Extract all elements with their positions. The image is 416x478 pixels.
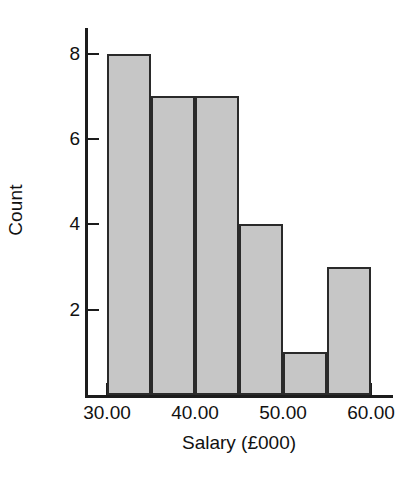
histogram-bar [327,267,371,395]
y-axis-tick-label: 4 [48,213,80,235]
x-axis-tick-label: 40.00 [152,402,238,424]
x-axis-tick-label: 60.00 [328,402,414,424]
y-axis-tick-mark [88,309,99,311]
histogram-bar [239,224,283,395]
histogram-bar [283,352,327,395]
x-axis-tick-label: 30.00 [64,402,150,424]
histogram-bar [107,54,151,395]
plot-area [85,28,393,398]
y-axis-tick-label: 6 [48,128,80,150]
histogram-bar [195,96,239,395]
y-axis-tick-label: 8 [48,43,80,65]
x-axis-tick-label: 50.00 [240,402,326,424]
y-axis-line [85,28,88,398]
y-axis-tick-mark [88,138,99,140]
histogram-figure: Count 2468 30.0040.0050.0060.00 Salary (… [0,0,416,478]
x-axis-tick-label-group: 30.0040.0050.0060.00 [85,402,405,428]
x-axis-line [85,395,393,398]
y-axis-tick-mark [88,53,99,55]
y-axis-tick-mark [88,223,99,225]
x-axis-title: Salary (£000) [85,432,393,454]
y-axis-tick-label: 2 [48,299,80,321]
histogram-bar [151,96,195,395]
